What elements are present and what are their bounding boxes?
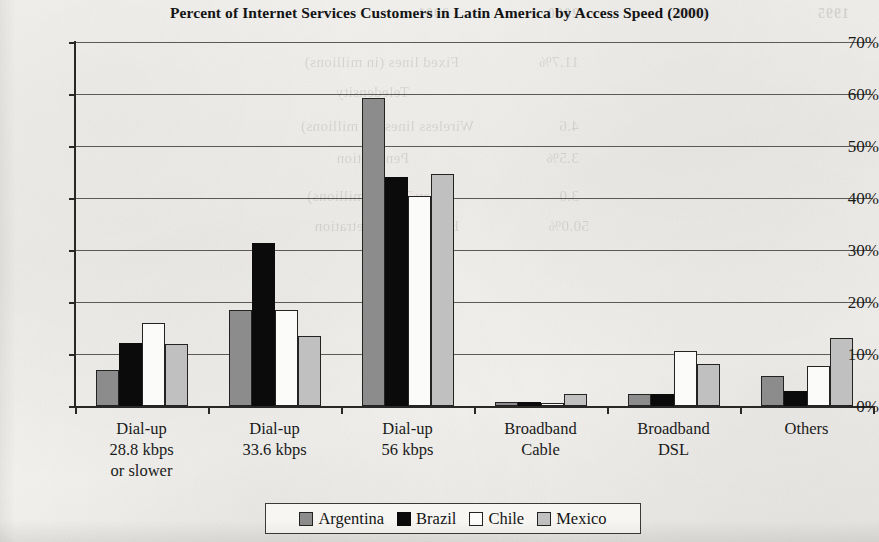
- legend-swatch-icon: [537, 512, 551, 526]
- category-label-line: 56 kbps: [341, 439, 474, 460]
- x-axis-tick-mark: [341, 406, 343, 414]
- y-axis-tick-mark: [69, 146, 76, 148]
- bar-cluster: [607, 42, 740, 406]
- y-axis-tick-mark: [69, 250, 76, 252]
- bar-cluster: [341, 42, 474, 406]
- y-axis-tick-label: 40%: [817, 190, 879, 207]
- chart-legend: ArgentinaBrazilChileMexico: [265, 503, 641, 534]
- category-label-line: Cable: [474, 439, 607, 460]
- bar[interactable]: [761, 376, 784, 406]
- bar[interactable]: [564, 394, 587, 406]
- bar[interactable]: [541, 403, 564, 406]
- x-axis-tick-mark: [607, 406, 609, 414]
- bar[interactable]: [697, 364, 720, 406]
- y-axis-tick-mark: [69, 198, 76, 200]
- x-axis-tick-mark: [740, 406, 742, 414]
- bar[interactable]: [229, 310, 252, 406]
- legend-swatch-icon: [397, 512, 411, 526]
- bar[interactable]: [165, 344, 188, 406]
- y-axis-tick-label: 20%: [817, 294, 879, 311]
- chart-title: Percent of Internet Services Customers i…: [0, 4, 879, 22]
- category-label-line: Broadband: [474, 418, 607, 439]
- y-axis-tick-mark: [69, 302, 76, 304]
- y-axis-tick-label: 60%: [817, 86, 879, 103]
- y-axis-tick-mark: [69, 94, 76, 96]
- bar[interactable]: [298, 336, 321, 406]
- legend-item[interactable]: Brazil: [397, 509, 456, 529]
- y-axis-tick-label: 0%: [817, 398, 879, 415]
- bar[interactable]: [628, 394, 651, 406]
- category-label-line: Dial-up: [75, 418, 208, 439]
- bar-chart: Percent of Internet Services Customers i…: [0, 0, 879, 542]
- bar-cluster: [208, 42, 341, 406]
- legend-item[interactable]: Chile: [469, 509, 524, 529]
- category-label-line: Broadband: [607, 418, 740, 439]
- plot-area: [75, 42, 873, 406]
- x-axis-category-label: Dial-up28.8 kbpsor slower: [75, 418, 208, 481]
- bar-cluster: [75, 42, 208, 406]
- legend-label: Argentina: [318, 509, 384, 529]
- y-axis-tick-label: 50%: [817, 138, 879, 155]
- category-label-line: 28.8 kbps: [75, 439, 208, 460]
- category-label-line: Dial-up: [208, 418, 341, 439]
- bar-cluster: [474, 42, 607, 406]
- x-axis-tick-mark: [208, 406, 210, 414]
- bar[interactable]: [431, 174, 454, 406]
- y-axis-tick-mark: [69, 406, 76, 408]
- bar[interactable]: [362, 98, 385, 406]
- category-label-line: Dial-up: [341, 418, 474, 439]
- y-axis-line: [74, 41, 76, 408]
- bar[interactable]: [275, 310, 298, 406]
- bar[interactable]: [495, 402, 518, 406]
- x-axis-category-label: BroadbandDSL: [607, 418, 740, 460]
- bar[interactable]: [784, 391, 807, 406]
- x-axis-category-label: Dial-up56 kbps: [341, 418, 474, 460]
- category-label-line: DSL: [607, 439, 740, 460]
- category-label-line: or slower: [75, 460, 208, 481]
- bar[interactable]: [119, 343, 142, 406]
- x-axis-category-label: BroadbandCable: [474, 418, 607, 460]
- x-axis-category-label: Dial-up33.6 kbps: [208, 418, 341, 460]
- y-axis-tick-mark: [69, 354, 76, 356]
- legend-item[interactable]: Mexico: [537, 509, 606, 529]
- bar[interactable]: [674, 351, 697, 406]
- bar[interactable]: [408, 196, 431, 406]
- category-label-line: Others: [740, 418, 873, 439]
- y-axis-tick-label: 30%: [817, 242, 879, 259]
- y-axis-tick-label: 70%: [817, 34, 879, 51]
- legend-label: Chile: [488, 509, 524, 529]
- bar[interactable]: [385, 177, 408, 406]
- legend-label: Mexico: [556, 509, 606, 529]
- bar[interactable]: [651, 394, 674, 406]
- legend-item[interactable]: Argentina: [299, 509, 384, 529]
- legend-label: Brazil: [416, 509, 456, 529]
- bar[interactable]: [518, 402, 541, 406]
- bar[interactable]: [142, 323, 165, 406]
- category-label-line: 33.6 kbps: [208, 439, 341, 460]
- legend-swatch-icon: [469, 512, 483, 526]
- x-axis-tick-mark: [474, 406, 476, 414]
- x-axis-category-label: Others: [740, 418, 873, 439]
- bar[interactable]: [252, 243, 275, 406]
- x-axis-tick-mark: [873, 406, 875, 414]
- legend-swatch-icon: [299, 512, 313, 526]
- bar[interactable]: [96, 370, 119, 406]
- y-axis-tick-mark: [69, 42, 76, 44]
- y-axis-tick-label: 10%: [817, 346, 879, 363]
